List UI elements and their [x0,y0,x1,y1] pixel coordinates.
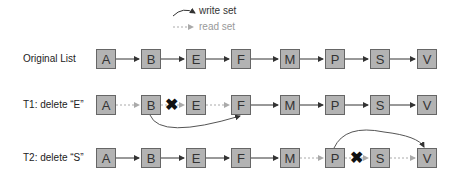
row-label-t2: T2: delete “S” [23,152,84,163]
node-p: P [325,49,345,69]
node-v: V [417,148,437,168]
node-f: F [231,148,251,168]
row-label-original: Original List [23,53,76,64]
node-a: A [96,148,116,168]
node-v: V [417,49,437,69]
node-e: E [186,148,206,168]
node-a: A [96,95,116,115]
node-s: S [370,148,390,168]
node-b: B [141,148,161,168]
node-p: P [325,148,345,168]
row-label-t1: T1: delete “E” [23,99,84,110]
node-e: E [186,49,206,69]
node-m: M [280,148,300,168]
cut-x-icon: ✖ [165,97,178,113]
node-m: M [280,95,300,115]
node-e: E [186,95,206,115]
node-m: M [280,49,300,69]
node-v: V [417,95,437,115]
legend-read-set: read set [199,21,235,32]
node-a: A [96,49,116,69]
node-s: S [370,95,390,115]
node-p: P [325,95,345,115]
legend-write-set: write set [199,5,236,16]
node-b: B [141,49,161,69]
cut-x-icon: ✖ [350,150,363,166]
node-s: S [370,49,390,69]
node-f: F [231,95,251,115]
node-b: B [141,95,161,115]
node-f: F [231,49,251,69]
